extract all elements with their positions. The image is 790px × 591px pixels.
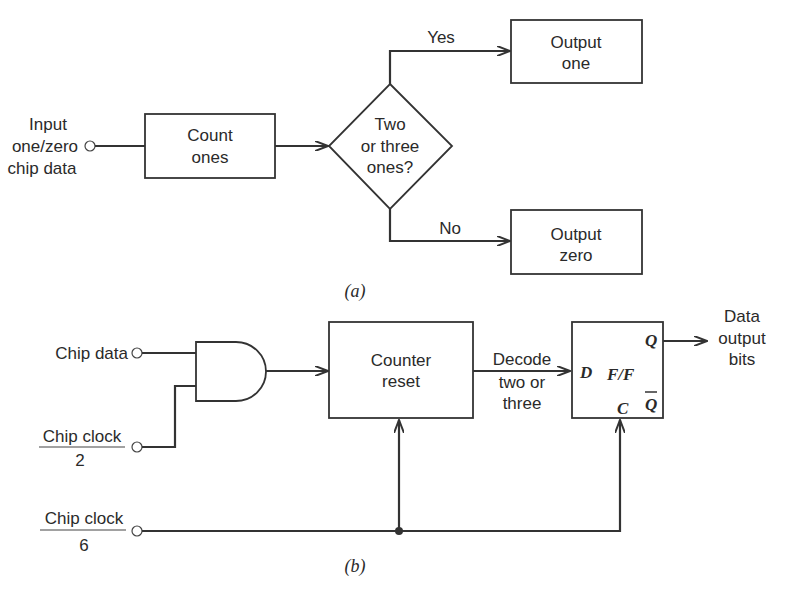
and-gate-icon — [196, 342, 266, 401]
svg-text:2: 2 — [75, 451, 84, 470]
svg-text:one/zero: one/zero — [12, 137, 78, 156]
chip-clock-2-label: Chip clock 2 — [39, 427, 125, 470]
counter-reset-box — [329, 322, 473, 418]
ff-name: F/F — [606, 365, 635, 384]
svg-text:6: 6 — [79, 536, 88, 555]
svg-text:Chip clock: Chip clock — [45, 509, 124, 528]
clock-wire — [142, 420, 620, 531]
svg-text:three: three — [503, 394, 542, 413]
svg-text:reset: reset — [382, 372, 420, 391]
input-label: Input one/zero chip data — [8, 115, 79, 178]
svg-text:Data: Data — [724, 307, 760, 326]
yes-label: Yes — [427, 28, 455, 47]
svg-text:one: one — [562, 54, 590, 73]
svg-text:bits: bits — [729, 350, 755, 369]
figure-b: Chip data Chip clock 2 Counter reset Dec… — [39, 307, 766, 577]
count-ones-box — [145, 114, 275, 178]
svg-text:ones?: ones? — [367, 158, 413, 177]
svg-text:zero: zero — [559, 246, 592, 265]
svg-text:Count: Count — [187, 126, 233, 145]
svg-text:ones: ones — [192, 148, 229, 167]
ff-q-pin: Q — [645, 331, 657, 350]
input-terminal-icon — [85, 141, 95, 151]
figure-a: Input one/zero chip data Count ones Two … — [8, 20, 643, 302]
ff-d-pin: D — [579, 363, 592, 382]
svg-text:Decode: Decode — [493, 350, 552, 369]
wire — [142, 386, 196, 447]
diagram-canvas: Input one/zero chip data Count ones Two … — [0, 0, 790, 591]
svg-text:output: output — [718, 329, 766, 348]
svg-text:Input: Input — [29, 115, 67, 134]
chip-clock-2-terminal-icon — [132, 442, 142, 452]
chip-data-terminal-icon — [132, 348, 142, 358]
junction-dot-icon — [395, 527, 403, 535]
svg-text:Output: Output — [550, 33, 601, 52]
svg-text:Two: Two — [374, 115, 405, 134]
ff-c-pin: C — [617, 399, 629, 418]
no-label: No — [439, 219, 461, 238]
ff-qbar-pin: Q — [645, 395, 657, 414]
chip-clock-6-terminal-icon — [132, 526, 142, 536]
chip-data-label: Chip data — [55, 344, 128, 363]
chip-clock-6-label: Chip clock 6 — [40, 509, 126, 555]
svg-text:Output: Output — [550, 225, 601, 244]
caption-a: (a) — [345, 281, 366, 302]
svg-text:Counter: Counter — [371, 351, 432, 370]
svg-text:or three: or three — [361, 137, 420, 156]
svg-text:Chip clock: Chip clock — [43, 427, 122, 446]
svg-text:two or: two or — [499, 373, 546, 392]
caption-b: (b) — [345, 556, 366, 577]
svg-text:chip data: chip data — [8, 159, 78, 178]
yes-arrow — [390, 51, 510, 84]
